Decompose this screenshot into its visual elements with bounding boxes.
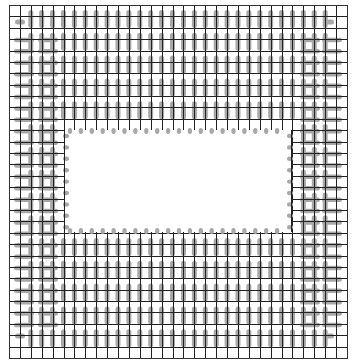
pad-vertical bbox=[159, 33, 164, 51]
pad-vertical bbox=[126, 33, 131, 51]
pad-dot bbox=[287, 191, 293, 195]
pad-vertical bbox=[246, 306, 251, 324]
pad-dot bbox=[68, 128, 72, 134]
pad-vertical bbox=[50, 10, 55, 28]
pad-dot bbox=[242, 128, 246, 134]
pad-dot bbox=[231, 128, 235, 134]
pad-vertical bbox=[246, 78, 251, 96]
pad-dot bbox=[155, 128, 159, 134]
pad-vertical bbox=[61, 101, 66, 119]
pad-dot bbox=[177, 128, 181, 134]
pad-dot bbox=[63, 134, 69, 138]
pad-dot bbox=[287, 168, 293, 172]
pad-dot bbox=[90, 128, 94, 134]
pad-dot bbox=[122, 228, 126, 234]
pad-vertical bbox=[257, 10, 262, 28]
pad-dot bbox=[79, 128, 83, 134]
pad-vertical bbox=[61, 56, 66, 74]
pad-dot bbox=[144, 228, 148, 234]
pad-dot bbox=[253, 228, 257, 234]
pad-vertical bbox=[268, 10, 273, 28]
pad-vertical bbox=[39, 329, 44, 347]
pad-left bbox=[38, 300, 58, 305]
pad-vertical bbox=[170, 10, 175, 28]
pad-vertical bbox=[279, 238, 284, 256]
pad-dot bbox=[111, 128, 115, 134]
pad-left bbox=[38, 277, 58, 282]
pad-vertical bbox=[257, 329, 262, 347]
pad-dot bbox=[275, 228, 279, 234]
pad-dot bbox=[63, 225, 69, 229]
central-cutout bbox=[64, 130, 292, 232]
pad-left bbox=[38, 72, 58, 77]
pad-vertical bbox=[137, 101, 142, 119]
pad-left bbox=[38, 243, 58, 248]
pad-dot bbox=[188, 128, 192, 134]
pad-vertical bbox=[148, 306, 153, 324]
pad-dot bbox=[90, 228, 94, 234]
pad-vertical bbox=[246, 10, 251, 28]
pad-dot bbox=[253, 128, 257, 134]
pad-vertical bbox=[279, 10, 284, 28]
pad-dot bbox=[63, 168, 69, 172]
pad-vertical bbox=[39, 10, 44, 28]
pad-vertical bbox=[257, 33, 262, 51]
pad-dot bbox=[63, 157, 69, 161]
pad-vertical bbox=[137, 238, 142, 256]
pad-dot bbox=[133, 128, 137, 134]
pad-vertical bbox=[268, 78, 273, 96]
pad-vertical bbox=[279, 284, 284, 302]
pad-dot bbox=[220, 128, 224, 134]
pad-dot bbox=[287, 157, 293, 161]
pad-vertical bbox=[257, 261, 262, 279]
pad-vertical bbox=[159, 284, 164, 302]
pad-vertical bbox=[159, 78, 164, 96]
pad-dot bbox=[63, 191, 69, 195]
pad-vertical bbox=[268, 33, 273, 51]
pad-vertical bbox=[268, 284, 273, 302]
pad-dot bbox=[220, 228, 224, 234]
pad-vertical bbox=[148, 56, 153, 74]
pad-vertical bbox=[28, 329, 33, 347]
pad-vertical bbox=[159, 101, 164, 119]
pad-dot bbox=[287, 179, 293, 183]
pad-vertical bbox=[28, 10, 33, 28]
pad-vertical bbox=[159, 329, 164, 347]
pad-dot bbox=[188, 228, 192, 234]
pad-dot bbox=[231, 228, 235, 234]
pad-vertical bbox=[126, 56, 131, 74]
pad-vertical bbox=[279, 329, 284, 347]
pad-left bbox=[38, 129, 58, 134]
pad-vertical bbox=[257, 306, 262, 324]
pad-vertical bbox=[148, 33, 153, 51]
pad-vertical bbox=[246, 56, 251, 74]
pad-dot bbox=[101, 228, 105, 234]
pad-dot bbox=[275, 128, 279, 134]
pad-vertical bbox=[61, 10, 66, 28]
pad-vertical bbox=[61, 78, 66, 96]
pad-vertical bbox=[148, 238, 153, 256]
pad-dot bbox=[68, 228, 72, 234]
pad-dot bbox=[287, 214, 293, 218]
pad-vertical bbox=[170, 329, 175, 347]
pad-vertical bbox=[279, 56, 284, 74]
pad-vertical bbox=[279, 261, 284, 279]
pad-vertical bbox=[61, 238, 66, 256]
pad-dot bbox=[101, 128, 105, 134]
pad-vertical bbox=[170, 56, 175, 74]
pad-vertical bbox=[257, 78, 262, 96]
pad-dot bbox=[210, 128, 214, 134]
pad-vertical bbox=[246, 261, 251, 279]
pad-vertical bbox=[148, 261, 153, 279]
pad-dot bbox=[111, 228, 115, 234]
pad-vertical bbox=[61, 261, 66, 279]
pad-vertical bbox=[257, 56, 262, 74]
pad-vertical bbox=[257, 101, 262, 119]
pad-left bbox=[38, 152, 58, 157]
pad-dot bbox=[177, 228, 181, 234]
pad-vertical bbox=[61, 306, 66, 324]
pad-dot bbox=[287, 225, 293, 229]
pad-vertical bbox=[159, 261, 164, 279]
pad-vertical bbox=[246, 101, 251, 119]
pad-vertical bbox=[170, 261, 175, 279]
